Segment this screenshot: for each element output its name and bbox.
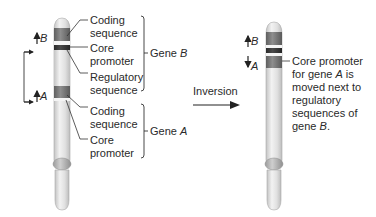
svg-text:sequence: sequence (90, 84, 138, 96)
arrow-right-icon (230, 101, 240, 109)
label-regulatory-sequence: Regulatory sequence (90, 71, 144, 96)
coding-sequence-a-band (266, 56, 282, 68)
right-gene-a-marker: A (248, 56, 258, 72)
svg-text:promoter: promoter (90, 55, 134, 67)
svg-text:promoter: promoter (90, 147, 134, 159)
left-gene-a-marker: A (37, 90, 47, 102)
left-gene-b-marker: B (37, 32, 47, 44)
left-lower-arm (55, 170, 69, 210)
right-chromosome (265, 22, 283, 210)
core-promoter-b-band (54, 45, 70, 50)
svg-text:sequences of: sequences of (292, 107, 358, 119)
svg-text:for gene A is: for gene A is (292, 68, 354, 80)
coding-sequence-a-band (54, 86, 70, 98)
inversion-region-bracket (24, 52, 33, 102)
right-gene-b-marker: B (248, 35, 258, 47)
gene-a-bracket: Gene A (141, 104, 187, 158)
gap-band (54, 41, 70, 45)
gene-a-bracket-label: Gene A (150, 125, 187, 137)
coding-sequence-b-band (266, 32, 282, 45)
core-promoter-b-band (266, 48, 282, 53)
regulatory-sequence-band (54, 50, 70, 86)
coding-sequence-b-band (54, 28, 70, 41)
svg-text:Regulatory: Regulatory (90, 71, 144, 83)
label-coding-sequence-b: Coding sequence (90, 14, 138, 39)
svg-text:Core: Core (90, 134, 114, 146)
core-promoter-a-band (54, 98, 70, 101)
label-core-promoter-b: Core promoter (90, 42, 134, 67)
gene-b-marker-label: B (40, 32, 47, 44)
core-promoter-a-band (266, 53, 282, 56)
svg-text:gene B.: gene B. (292, 120, 330, 132)
inversion-diagram: B A Coding sequence Core promoter Regula… (0, 0, 376, 217)
svg-text:sequence: sequence (90, 27, 138, 39)
gene-b-bracket: Gene B (141, 16, 187, 91)
gene-a-marker-label: A (39, 90, 47, 102)
gene-b-marker-label: B (251, 35, 258, 47)
gene-b-bracket-label: Gene B (150, 47, 187, 59)
svg-text:Core promoter: Core promoter (292, 55, 363, 67)
gap-band (266, 45, 282, 48)
inversion-label: Inversion (193, 85, 238, 97)
svg-text:Coding: Coding (90, 14, 125, 26)
gene-a-marker-label: A (250, 60, 258, 72)
left-centromere (53, 158, 71, 170)
svg-text:regulatory: regulatory (292, 94, 341, 106)
svg-text:Coding: Coding (90, 105, 125, 117)
promoter-note: Core promoter for gene A is moved next t… (292, 55, 363, 132)
left-chromosome (53, 18, 71, 210)
svg-text:Core: Core (90, 42, 114, 54)
right-centromere (265, 158, 283, 170)
svg-text:sequence: sequence (90, 118, 138, 130)
inversion-arrow: Inversion (193, 85, 240, 109)
label-core-promoter-a: Core promoter (90, 134, 134, 159)
right-lower-arm (267, 170, 281, 210)
label-coding-sequence-a: Coding sequence (90, 105, 138, 130)
svg-text:moved next to: moved next to (292, 81, 361, 93)
